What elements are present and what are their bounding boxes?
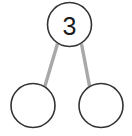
part-right-circle[interactable] bbox=[79, 84, 123, 128]
part-left-circle[interactable] bbox=[11, 84, 55, 128]
connector-whole-to-right-part bbox=[82, 44, 90, 87]
number-bond-canvas: 3 bbox=[0, 0, 132, 136]
connector-whole-to-left-part bbox=[45, 44, 58, 87]
number-bond-diagram: 3 bbox=[0, 0, 132, 136]
whole-value-label: 3 bbox=[63, 12, 77, 40]
